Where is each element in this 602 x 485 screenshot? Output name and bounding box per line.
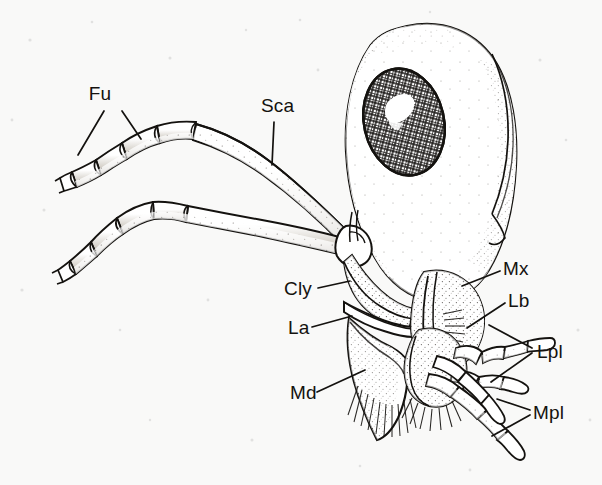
label-sca: Sca	[261, 95, 295, 116]
label-lb: Lb	[508, 290, 530, 311]
label-lpl: Lpl	[537, 341, 563, 362]
antenna-lower	[52, 202, 350, 284]
label-mpl: Mpl	[533, 402, 564, 423]
figure-container: Fu Sca Cly La Md Mx Lb Lpl Mpl	[0, 0, 602, 485]
label-la: La	[288, 317, 310, 338]
insect-head-illustration: Fu Sca Cly La Md Mx Lb Lpl Mpl	[0, 0, 602, 485]
label-cly: Cly	[284, 278, 312, 299]
label-md: Md	[290, 382, 317, 403]
label-mx: Mx	[503, 258, 529, 279]
label-fu: Fu	[89, 83, 112, 104]
